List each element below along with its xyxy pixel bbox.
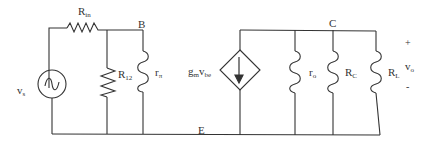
label-node-b: B <box>138 19 145 30</box>
current-arrow-icon <box>235 75 243 83</box>
resistor-rpi-icon <box>138 51 149 92</box>
resistor-r12-icon <box>101 68 115 97</box>
label-rc: RC <box>345 67 357 80</box>
label-gm-vbe: gmvbe <box>188 66 211 79</box>
label-vo: vo <box>405 61 414 74</box>
wire-emitter-rail <box>52 134 380 135</box>
label-vs: vs <box>17 85 25 98</box>
wire-source-top <box>49 28 67 88</box>
resistor-rin-icon <box>67 23 100 32</box>
sine-wave-icon <box>45 78 59 90</box>
resistor-ro-icon <box>290 51 301 93</box>
wire-rl-bottom <box>376 93 380 135</box>
label-output-minus: - <box>406 82 409 92</box>
label-rl: RL <box>388 67 400 80</box>
circuit-schematic <box>0 0 432 146</box>
resistor-rl-icon <box>371 51 382 93</box>
label-r12: R12 <box>118 69 132 82</box>
resistor-rc-icon <box>328 51 339 93</box>
wire-collector-top <box>240 30 376 31</box>
label-rpi: rπ <box>155 67 162 80</box>
label-output-plus: + <box>405 38 411 48</box>
label-node-c: C <box>329 18 336 29</box>
label-rin: Rin <box>78 6 91 19</box>
label-node-e: E <box>198 125 205 136</box>
dependent-current-source-icon <box>220 50 260 90</box>
label-ro: ro <box>309 67 316 80</box>
